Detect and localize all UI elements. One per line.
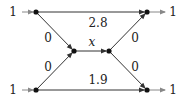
- node-s2: [33, 87, 38, 92]
- edge-label-a-b: x: [89, 35, 96, 49]
- input-label-bottom: 1: [9, 83, 17, 97]
- edge-s1-a: [36, 12, 72, 49]
- edge-label-s1-a: 0: [44, 31, 52, 45]
- input-label-top: 1: [9, 5, 17, 19]
- edge-label-b-t2: 0: [131, 60, 139, 74]
- edge-b-t2: [109, 51, 145, 88]
- edge-label-top: 2.8: [88, 16, 107, 30]
- node-t2: [144, 87, 149, 92]
- edge-label-b-t1: 0: [131, 31, 139, 45]
- node-s1: [33, 9, 38, 14]
- edge-s2-a: [36, 53, 72, 90]
- edge-label-s2-a: 0: [44, 60, 52, 74]
- node-b: [106, 48, 111, 53]
- edge-label-bottom: 1.9: [88, 73, 107, 87]
- node-t1: [144, 9, 149, 14]
- edge-b-t1: [109, 14, 145, 51]
- node-a: [71, 48, 76, 53]
- output-label-top: 1: [169, 5, 177, 19]
- output-label-bottom: 1: [169, 83, 177, 97]
- flow-network-diagram: 1 1 1 1 2.8 1.9 0 0 x 0 0: [0, 0, 183, 102]
